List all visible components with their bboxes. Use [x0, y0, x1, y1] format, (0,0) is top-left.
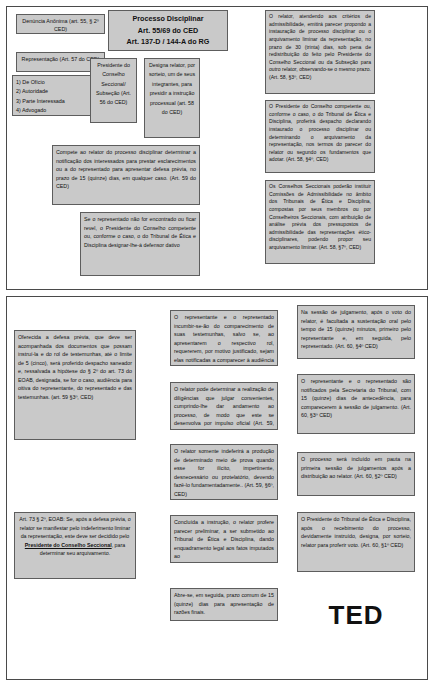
box-parecer-preliminar: Concluída a instrução, o relator profere… [170, 515, 278, 563]
box-comissoes-admissibilidade: Os Conselhos Seccionais poderão institui… [265, 180, 375, 264]
box-comparecimento-testemunhas: O representante e o representado incumbi… [170, 310, 278, 366]
box-parecer-admissibilidade: O relator, atendendo aos critérios de ad… [265, 10, 375, 94]
diagram-canvas: Denúncia Anônima (art. 55, § 2º CED) Rep… [0, 0, 434, 684]
box-diligencias: O relator pode determinar a realização d… [170, 382, 278, 430]
indeferimento-text: Art. 73 § 2º, EOAB: Se, após a defesa pr… [19, 516, 130, 556]
box-defesa-previa: Oferecida a defesa prévia, que deve ser … [14, 330, 136, 440]
box-indeferimento-liminar: Art. 73 § 2º, EOAB: Se, após a defesa pr… [14, 512, 136, 579]
box-despacho-presidente: O Presidente do Conselho competente ou, … [265, 100, 375, 173]
box-recebimento-processo: O Presidente do Tribunal de Ética e Disc… [297, 512, 415, 572]
box-processo-disciplinar-titulo: Processo Disciplinar Art. 55/69 do CED A… [108, 10, 228, 51]
box-notificacao-sessao: O representante e o representado são not… [297, 374, 415, 434]
box-compete-relator: Compete ao relator do processo disciplin… [52, 145, 200, 205]
box-indeferimento-prova: O relator somente indeferirá a produção … [170, 444, 278, 500]
box-inclusao-pauta: O processo será incluído em pauta na pri… [297, 452, 415, 496]
box-razoes-finais: Abre-se, em seguida, prazo comum de 15 (… [170, 588, 278, 621]
box-ted: TED [297, 592, 415, 638]
box-sustentacao-oral: Na sessão de julgamento, após o voto do … [297, 305, 415, 359]
box-denuncia-anonima: Denúncia Anônima (art. 55, § 2º CED) [16, 14, 105, 34]
box-designa-relator: Designa relator, por sorteio, um de seus… [144, 58, 200, 138]
box-defensor-dativo: Se o representado não for encontrado ou … [80, 212, 200, 276]
box-presidente-conselho: Presidente do Conselho Seccional/ Subseç… [90, 58, 137, 123]
